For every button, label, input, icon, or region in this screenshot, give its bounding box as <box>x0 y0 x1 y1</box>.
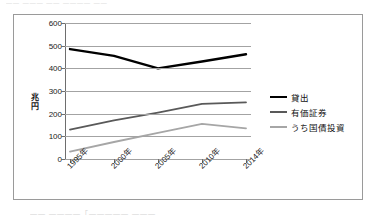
y-axis-tick <box>61 136 65 137</box>
legend-item: 有価証券 <box>270 104 362 119</box>
y-tick-label: 300 <box>49 87 62 96</box>
gridline <box>65 114 251 115</box>
y-axis-tick-labels: 0100200300400500600 <box>36 15 62 201</box>
plot-wrapper: 兆円 0100200300400500600 1995年2000年2005年20… <box>14 15 264 201</box>
y-tick-label: 100 <box>49 132 62 141</box>
gridline <box>65 68 251 69</box>
y-tick-label: 200 <box>49 109 62 118</box>
chart-frame: 兆円 0100200300400500600 1995年2000年2005年20… <box>13 14 363 200</box>
y-axis-tick <box>61 159 65 160</box>
plot-area <box>65 23 251 159</box>
legend-item: うち国債投資 <box>270 119 362 134</box>
top-cutoff-text: —— ——— —— ———— —— <box>6 0 306 7</box>
x-axis-tick-labels: 1995年2000年2005年2010年2014年 <box>65 163 265 201</box>
legend-swatch <box>270 96 287 98</box>
gridline <box>65 23 251 24</box>
legend-item: 貸出 <box>270 89 362 104</box>
legend-swatch <box>270 126 287 128</box>
chart-legend: 貸出有価証券うち国債投資 <box>270 89 362 134</box>
legend-label: 貸出 <box>291 91 309 103</box>
gridline <box>65 46 251 47</box>
gridline <box>65 136 251 137</box>
y-tick-label: 400 <box>49 64 62 73</box>
y-axis-tick <box>61 23 65 24</box>
bottom-cutoff-text: —— ————「————— ——— <box>30 208 350 217</box>
y-tick-label: 600 <box>49 19 62 28</box>
series-line <box>70 49 246 68</box>
y-tick-label: 500 <box>49 41 62 50</box>
legend-label: 有価証券 <box>291 106 327 118</box>
y-axis-tick <box>61 114 65 115</box>
y-axis-tick <box>61 91 65 92</box>
legend-label: うち国債投資 <box>291 121 345 133</box>
series-line <box>70 124 246 152</box>
y-axis-tick <box>61 46 65 47</box>
figure-page: —— ——— —— ———— —— 兆円 0100200300400500600… <box>0 0 376 217</box>
gridline <box>65 91 251 92</box>
y-axis-tick <box>61 68 65 69</box>
legend-swatch <box>270 111 287 113</box>
